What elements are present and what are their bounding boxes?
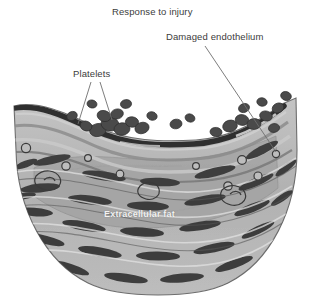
vessel-wall-illustration: [0, 0, 314, 306]
figure-canvas: Response to injury Damaged endothelium P…: [0, 0, 314, 306]
label-response-to-injury: Response to injury: [112, 6, 192, 17]
label-platelets: Platelets: [73, 68, 110, 79]
label-extracellular-fat: Extracellular fat: [104, 209, 175, 219]
label-damaged-endothelium: Damaged endothelium: [166, 31, 264, 42]
